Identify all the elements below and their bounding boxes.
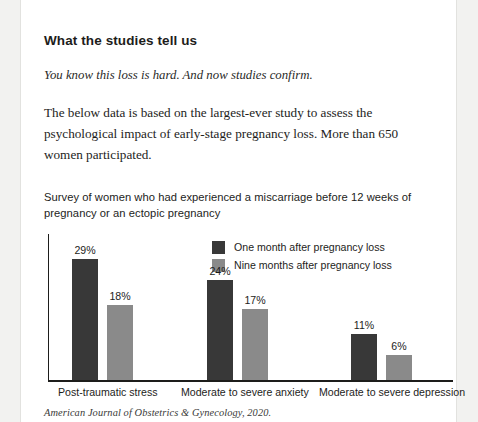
bar-value-one-month-1: 24% bbox=[209, 266, 230, 277]
article-subtitle: You know this loss is hard. And now stud… bbox=[44, 49, 436, 83]
bar-value-nine-months-2: 6% bbox=[391, 341, 406, 352]
chart-title: Survey of women who had experienced a mi… bbox=[44, 189, 436, 223]
bar-value-nine-months-1: 17% bbox=[244, 295, 265, 306]
article-paragraph: The below data is based on the largest-e… bbox=[44, 84, 436, 166]
x-axis-line bbox=[48, 380, 453, 382]
bar-chart: One month after pregnancy loss Nine mont… bbox=[44, 234, 459, 394]
bar-nine-months-1: 17% bbox=[242, 234, 268, 380]
article-page: What the studies tell us You know this l… bbox=[20, 0, 457, 422]
bar-value-nine-months-0: 18% bbox=[109, 291, 130, 302]
x-axis-label-2: Moderate to severe depression bbox=[319, 386, 465, 399]
chart-block: Survey of women who had experienced a mi… bbox=[44, 189, 436, 419]
bar-rect-nine-months-0 bbox=[107, 305, 133, 380]
bar-nine-months-2: 6% bbox=[386, 234, 412, 380]
page-title: What the studies tell us bbox=[44, 0, 436, 49]
article-content: What the studies tell us You know this l… bbox=[44, 0, 436, 418]
bar-value-one-month-0: 29% bbox=[74, 245, 95, 256]
x-axis-labels: Post-traumatic stress Moderate to severe… bbox=[48, 386, 453, 402]
bar-rect-one-month-2 bbox=[351, 334, 377, 380]
bar-one-month-0: 29% bbox=[72, 234, 98, 380]
bar-rect-one-month-0 bbox=[72, 259, 98, 380]
bar-groups: 29% 18% 24% bbox=[48, 234, 453, 380]
bar-value-one-month-2: 11% bbox=[354, 320, 374, 331]
bar-one-month-1: 24% bbox=[207, 234, 233, 380]
bar-one-month-2: 11% bbox=[351, 234, 377, 380]
bar-rect-one-month-1 bbox=[207, 280, 233, 380]
bar-rect-nine-months-2 bbox=[386, 355, 412, 380]
bar-rect-nine-months-1 bbox=[242, 309, 268, 380]
x-axis-label-0: Post-traumatic stress bbox=[58, 386, 158, 399]
x-axis-label-1: Moderate to severe anxiety bbox=[181, 386, 309, 399]
bar-nine-months-0: 18% bbox=[107, 234, 133, 380]
